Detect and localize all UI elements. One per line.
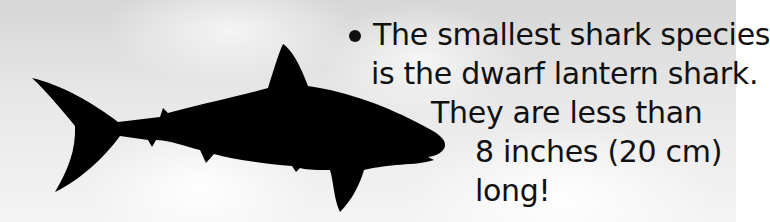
- bullet-point-icon: [349, 30, 361, 42]
- fact-line-3: They are less than: [431, 94, 703, 131]
- fact-line-5: long!: [475, 172, 550, 209]
- fact-line-1: The smallest shark species: [373, 16, 770, 53]
- fact-line-4: 8 inches (20 cm): [475, 133, 722, 170]
- fact-line-2: is the dwarf lantern shark.: [371, 55, 758, 92]
